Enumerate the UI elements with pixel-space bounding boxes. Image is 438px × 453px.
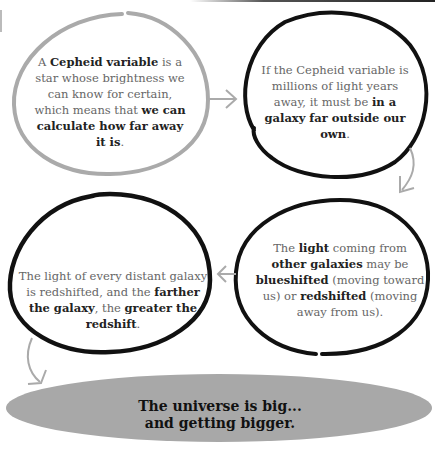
text-segment-bold: Cepheid variable — [50, 55, 158, 69]
arrow-right-icon — [208, 90, 236, 108]
text-segment: A — [38, 55, 50, 69]
conclusion-line-2: and getting bigger. — [40, 415, 400, 432]
text-segment: , the — [95, 301, 125, 315]
cepheid-text: A Cepheid variable is a star whose brigh… — [30, 54, 190, 150]
redshift-text: The light of every distant galaxy is red… — [18, 268, 208, 332]
text-segment: . — [137, 317, 141, 331]
text-segment-bold: redshifted — [300, 289, 366, 303]
text-segment-bold: blueshifted — [256, 273, 329, 287]
arrow-left-icon — [218, 266, 236, 282]
shift-text: The light coming from other galaxies may… — [255, 240, 425, 320]
text-segment-bold: light — [299, 241, 329, 255]
text-segment: The — [273, 241, 299, 255]
conclusion-line-1: The universe is big... — [40, 398, 400, 415]
text-segment-bold: other galaxies — [272, 257, 363, 271]
text-segment: may be — [363, 257, 409, 271]
galaxy-text: If the Cepheid variable is millions of l… — [258, 62, 412, 142]
text-segment: . — [346, 127, 350, 141]
arrow-down-left-icon — [28, 338, 46, 384]
conclusion-text: The universe is big... and getting bigge… — [40, 398, 400, 432]
text-segment: . — [120, 135, 124, 149]
text-segment: coming from — [329, 241, 407, 255]
